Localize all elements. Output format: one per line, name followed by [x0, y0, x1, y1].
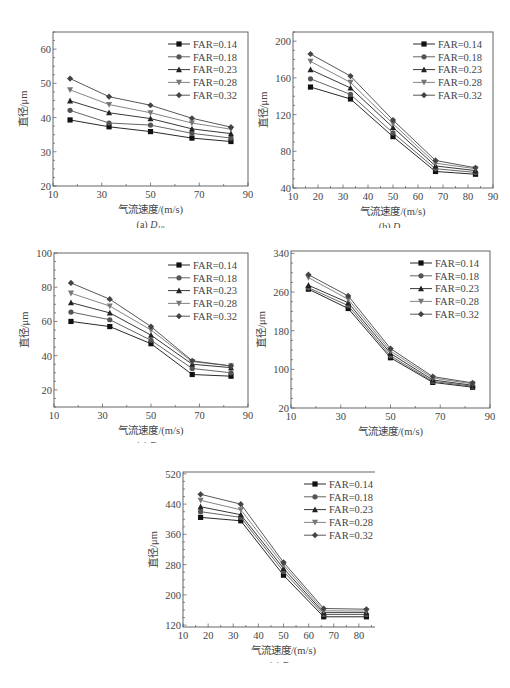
- panel-caption: (e) D0.9: [269, 660, 299, 663]
- x-tick-label: 30: [97, 189, 108, 200]
- legend-entry: FAR=0.23: [329, 504, 373, 515]
- legend-entry: FAR=0.32: [435, 309, 479, 320]
- y-tick-label: 100: [36, 248, 52, 259]
- y-tick-label: 40: [281, 183, 292, 194]
- legend-entry: FAR=0.28: [438, 77, 482, 88]
- x-tick-label: 50: [145, 189, 156, 200]
- y-tick-label: 60: [42, 316, 53, 327]
- x-tick-label: 50: [385, 411, 396, 422]
- x-tick-label: 30: [336, 411, 347, 422]
- chart-panel-c: 103050709020406080100气流速度/(m/s)直径/μmFAR=…: [0, 215, 255, 443]
- legend: FAR=0.14FAR=0.18FAR=0.23FAR=0.28FAR=0.32: [410, 258, 480, 320]
- y-tick-label: 40: [42, 351, 53, 362]
- y-tick-label: 280: [165, 560, 181, 571]
- chart-panel-e: 102030405060708090120200280360440520气流速度…: [120, 435, 375, 663]
- legend-entry: FAR=0.14: [329, 479, 374, 490]
- y-tick-label: 20: [42, 385, 53, 396]
- legend-entry: FAR=0.18: [435, 271, 479, 282]
- x-tick-label: 40: [253, 630, 264, 641]
- legend-entry: FAR=0.23: [193, 285, 237, 296]
- y-tick-label: 440: [165, 499, 181, 510]
- x-tick-label: 90: [243, 189, 254, 200]
- legend-entry: FAR=0.32: [193, 90, 237, 101]
- legend-entry: FAR=0.23: [193, 64, 237, 75]
- x-tick-label: 80: [463, 191, 474, 202]
- legend-entry: FAR=0.32: [193, 311, 237, 322]
- y-axis-label: 直径/μm: [18, 312, 30, 349]
- y-tick-label: 200: [165, 590, 181, 601]
- legend-entry: FAR=0.18: [193, 52, 237, 63]
- x-tick-label: 40: [363, 191, 374, 202]
- x-tick-label: 30: [97, 410, 108, 421]
- chart-panel-a: 10305070902030405060气流速度/(m/s)直径/μmFAR=0…: [0, 0, 255, 228]
- y-tick-label: 50: [41, 78, 52, 89]
- x-tick-label: 10: [49, 410, 60, 421]
- x-tick-label: 50: [146, 410, 157, 421]
- x-tick-label: 80: [354, 630, 365, 641]
- y-tick-label: 20: [279, 403, 290, 414]
- chart-svg: 103050709020100180260340气流速度/(m/s)直径/μmF…: [255, 215, 510, 443]
- x-tick-label: 70: [194, 189, 205, 200]
- y-tick-label: 20: [41, 181, 52, 192]
- x-tick-label: 70: [329, 630, 340, 641]
- legend: FAR=0.14FAR=0.18FAR=0.23FAR=0.28FAR=0.32: [413, 39, 483, 101]
- y-tick-label: 30: [41, 147, 52, 158]
- x-tick-label: 30: [228, 630, 239, 641]
- x-tick-label: 20: [313, 191, 324, 202]
- y-tick-label: 100: [273, 364, 289, 375]
- y-tick-label: 160: [275, 73, 291, 84]
- x-axis-label: 气流速度/(m/s): [251, 644, 317, 657]
- y-axis-label: 直径/μm: [255, 311, 267, 348]
- y-tick-label: 360: [165, 529, 181, 540]
- x-tick-label: 70: [435, 411, 446, 422]
- y-tick-label: 120: [275, 110, 291, 121]
- x-tick-label: 70: [438, 191, 449, 202]
- x-tick-label: 10: [178, 630, 189, 641]
- legend-entry: FAR=0.18: [193, 273, 237, 284]
- y-axis-label: 直径/μm: [257, 92, 269, 129]
- x-tick-label: 30: [338, 191, 349, 202]
- panel-caption: (d) D0.5: [375, 441, 406, 443]
- chart-svg: 102030405060708090120200280360440520气流速度…: [120, 435, 375, 663]
- legend-entry: FAR=0.18: [329, 492, 373, 503]
- y-axis-label: 直径/μm: [147, 531, 159, 568]
- x-tick-label: 70: [194, 410, 205, 421]
- y-tick-label: 80: [42, 282, 53, 293]
- y-axis-label: 直径/μm: [17, 91, 29, 128]
- y-tick-label: 340: [273, 248, 289, 259]
- y-tick-label: 200: [275, 36, 291, 47]
- x-tick-label: 90: [243, 410, 254, 421]
- chart-svg: 1020304050607080904080120160200气流速度/(m/s…: [255, 0, 510, 228]
- legend: FAR=0.14FAR=0.18FAR=0.23FAR=0.28FAR=0.32: [168, 260, 238, 322]
- y-tick-label: 260: [273, 287, 289, 298]
- y-tick-label: 180: [273, 326, 289, 337]
- legend-entry: FAR=0.28: [193, 77, 237, 88]
- legend-entry: FAR=0.28: [435, 296, 479, 307]
- legend-entry: FAR=0.32: [329, 530, 373, 541]
- y-tick-label: 60: [41, 44, 52, 55]
- chart-panel-b: 1020304050607080904080120160200气流速度/(m/s…: [255, 0, 510, 228]
- legend-entry: FAR=0.18: [438, 52, 482, 63]
- y-tick-label: 80: [281, 146, 292, 157]
- series-far-0-28: [308, 59, 479, 172]
- chart-panel-d: 103050709020100180260340气流速度/(m/s)直径/μmF…: [255, 215, 510, 443]
- chart-svg: 10305070902030405060气流速度/(m/s)直径/μmFAR=0…: [0, 0, 255, 228]
- legend-entry: FAR=0.32: [438, 90, 482, 101]
- x-tick-label: 50: [388, 191, 399, 202]
- legend-entry: FAR=0.28: [329, 517, 373, 528]
- legend-entry: FAR=0.14: [435, 258, 480, 269]
- legend-entry: FAR=0.23: [438, 64, 482, 75]
- x-tick-label: 60: [413, 191, 424, 202]
- legend-entry: FAR=0.23: [435, 283, 479, 294]
- x-tick-label: 50: [278, 630, 289, 641]
- x-tick-label: 90: [488, 191, 499, 202]
- legend: FAR=0.14FAR=0.18FAR=0.23FAR=0.28FAR=0.32: [168, 39, 238, 101]
- y-tick-label: 520: [165, 469, 181, 480]
- legend: FAR=0.14FAR=0.18FAR=0.23FAR=0.28FAR=0.32: [304, 479, 374, 541]
- y-tick-label: 40: [41, 113, 52, 124]
- x-tick-label: 90: [485, 411, 496, 422]
- legend-entry: FAR=0.14: [193, 39, 238, 50]
- chart-svg: 103050709020406080100气流速度/(m/s)直径/μmFAR=…: [0, 215, 255, 443]
- legend-entry: FAR=0.14: [193, 260, 238, 271]
- x-tick-label: 60: [303, 630, 314, 641]
